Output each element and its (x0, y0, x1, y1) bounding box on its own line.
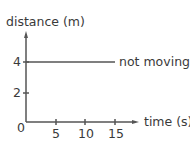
x-tick-15: 15 (108, 128, 124, 141)
x-tick-10: 10 (78, 128, 94, 141)
x-axis-arrow-icon (132, 120, 139, 124)
y-axis-arrow-icon (24, 31, 28, 38)
y-tick-4: 4 (13, 56, 21, 69)
x-tick-5: 5 (52, 128, 60, 141)
origin-label: 0 (17, 122, 25, 135)
x-axis-label: time (s) (144, 116, 190, 129)
y-tick-2: 2 (13, 87, 21, 100)
line-annotation: not moving (119, 56, 190, 69)
y-axis-label: distance (m) (6, 16, 85, 29)
